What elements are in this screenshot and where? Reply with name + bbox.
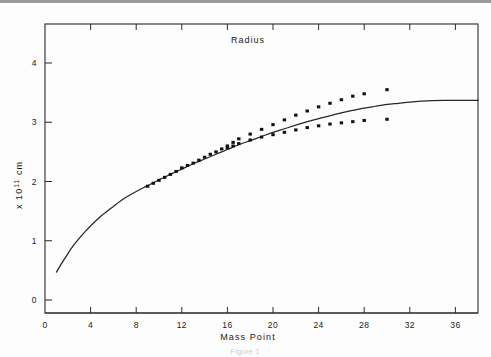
y-tick-label: 2 [32,177,37,187]
x-tick-label: 32 [405,320,415,330]
data-point-lower [363,119,366,122]
data-point-upper [237,137,240,140]
model-curve [56,100,478,272]
x-tick-label: 16 [222,320,232,330]
y-axis-tick-labels: 01234 [32,58,37,305]
data-point-upper [271,123,274,126]
data-point-lower [328,123,331,126]
y-axis-title-exponent: 11 [13,179,20,188]
svg-text:x 1011 cm: x 1011 cm [13,161,24,209]
data-point-lower [385,118,388,121]
data-point-lower [306,126,309,129]
radius-chart: 04812162024283236 01234 Radius Mass Poin… [0,0,491,357]
data-point-upper [306,109,309,112]
data-point-upper [180,166,183,169]
data-point-lower [351,120,354,123]
data-point-upper [192,162,195,165]
data-point-lower [317,124,320,127]
x-tick-label: 20 [268,320,278,330]
data-point-lower [283,131,286,134]
data-point-lower [249,139,252,142]
page-top-border [0,0,491,3]
data-point-upper [231,141,234,144]
data-point-upper [163,176,166,179]
data-point-lower [237,142,240,145]
data-point-upper [220,147,223,150]
y-tick-label: 1 [32,236,37,246]
chart-title: Radius [231,35,265,45]
data-point-upper [340,98,343,101]
data-point-lower [260,136,263,139]
plot-frame-rect [45,24,478,313]
data-point-upper [328,102,331,105]
data-point-upper [283,118,286,121]
x-tick-label: 36 [450,320,460,330]
data-point-upper [197,159,200,162]
x-axis-tick-labels: 04812162024283236 [42,320,460,330]
data-point-upper [214,150,217,153]
y-axis-title-unit: cm [14,161,24,179]
top-axis-ticks [91,24,456,30]
y-axis-ticks [45,63,52,300]
y-tick-label: 0 [32,295,37,305]
data-point-upper [385,88,388,91]
x-axis-ticks [91,307,456,313]
y-tick-label: 3 [32,117,37,127]
data-point-lower [271,133,274,136]
data-point-upper [169,173,172,176]
x-tick-label: 12 [177,320,187,330]
data-point-lower [231,144,234,147]
y-axis-title: x 1011 cm [13,161,24,209]
model-curve-path [56,100,478,272]
figure-container: 04812162024283236 01234 Radius Mass Poin… [0,0,491,357]
x-tick-label: 24 [313,320,323,330]
data-point-upper [186,164,189,167]
data-point-upper [249,133,252,136]
x-axis-title: Mass Point [220,332,276,342]
data-point-lower [340,121,343,124]
data-point-upper [317,105,320,108]
x-tick-label: 8 [134,320,139,330]
data-point-upper [203,156,206,159]
figure-caption: Figure 1 [230,347,260,356]
x-tick-label: 28 [359,320,369,330]
y-tick-label: 4 [32,58,37,68]
plot-frame [45,24,478,313]
data-point-lower [294,128,297,131]
data-point-upper [146,185,149,188]
data-point-upper [351,95,354,98]
x-tick-label: 0 [42,320,47,330]
data-point-upper [363,92,366,95]
data-point-lower [226,146,229,149]
data-point-upper [260,128,263,131]
data-point-upper [157,179,160,182]
data-point-upper [152,182,155,185]
data-point-upper [174,170,177,173]
x-tick-label: 4 [88,320,93,330]
data-point-upper [294,114,297,117]
data-point-upper [209,153,212,156]
y-axis-title-prefix: x 10 [14,188,24,209]
upper-branch-points [146,88,389,188]
